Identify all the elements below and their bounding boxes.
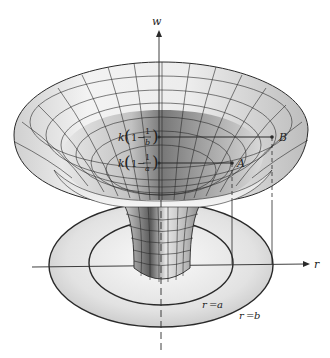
wormhole-diagram: w r B A k ( 1 − 1 b ) k ( 1 − 1 a ) r = … <box>0 0 330 358</box>
svg-text:b: b <box>254 310 260 321</box>
r-axis-label: r <box>314 258 320 271</box>
svg-text:1: 1 <box>145 127 150 136</box>
svg-text:a: a <box>217 299 223 310</box>
svg-text:a: a <box>145 164 150 173</box>
w-axis-label: w <box>152 15 162 28</box>
svg-text:b: b <box>145 138 150 147</box>
point-a-label: A <box>236 157 245 170</box>
funnel-upper <box>14 62 308 207</box>
w-axis-arrow-icon <box>156 30 162 37</box>
svg-text:r: r <box>239 310 245 321</box>
svg-text:): ) <box>152 152 159 172</box>
label-r-equals-a: r = a <box>202 299 223 310</box>
label-r-equals-b: r = b <box>239 310 260 321</box>
r-axis-arrow-icon <box>303 261 310 267</box>
point-b-label: B <box>278 131 287 144</box>
svg-text:): ) <box>152 126 159 146</box>
svg-text:(: ( <box>124 152 131 172</box>
svg-text:1: 1 <box>145 153 150 162</box>
svg-text:(: ( <box>124 126 131 146</box>
